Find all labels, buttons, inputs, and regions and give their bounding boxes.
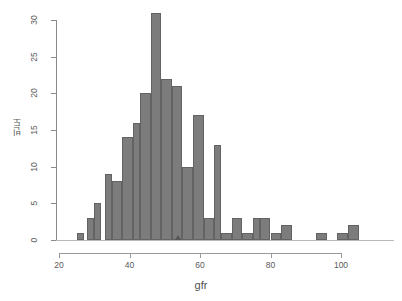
x-tick	[200, 253, 201, 258]
y-tick-label: 20	[28, 83, 40, 103]
x-tick	[271, 253, 272, 258]
y-tick-label: 5	[28, 193, 40, 213]
y-tick-label: 10	[28, 157, 40, 177]
mean-marker-triangle	[175, 235, 181, 240]
y-tick	[51, 57, 56, 58]
x-tick-label: 20	[44, 260, 74, 271]
y-tick-label: 25	[28, 47, 40, 67]
y-tick-label: 0	[28, 230, 40, 250]
histogram-bar	[232, 218, 243, 240]
histogram-bar	[94, 203, 101, 240]
histogram-bar	[172, 86, 183, 240]
histogram-bar	[348, 225, 359, 240]
histogram-bar	[133, 123, 140, 240]
histogram-bar	[204, 218, 215, 240]
x-tick-label: 60	[185, 260, 215, 271]
y-tick-label: 30	[28, 10, 40, 30]
histogram-bar	[271, 233, 282, 240]
x-tick-label: 100	[326, 260, 356, 271]
histogram-bar	[77, 233, 84, 240]
histogram-bar	[316, 233, 327, 240]
histogram-bar	[87, 218, 94, 240]
histogram-bar	[105, 174, 112, 240]
y-tick	[51, 130, 56, 131]
x-axis-title: gfr	[0, 279, 402, 291]
x-tick	[341, 253, 342, 258]
histogram-bar	[161, 79, 172, 240]
histogram-bar	[182, 167, 193, 240]
histogram-bar	[337, 233, 348, 240]
histogram-bar	[140, 93, 151, 240]
x-tick-label: 40	[115, 260, 145, 271]
x-tick	[59, 253, 60, 258]
histogram-chart: 051015202530 빈도 20406080100 gfr	[0, 0, 402, 301]
histogram-bar	[242, 233, 253, 240]
histogram-bar	[112, 181, 123, 240]
histogram-bar	[281, 225, 292, 240]
bars-baseline	[56, 240, 394, 241]
y-tick-label: 15	[28, 120, 40, 140]
y-axis-title: 빈도	[12, 107, 26, 147]
y-tick	[51, 167, 56, 168]
y-axis-line	[56, 20, 57, 241]
x-tick	[130, 253, 131, 258]
histogram-bar	[193, 115, 204, 240]
histogram-bar	[221, 233, 232, 240]
histogram-bar	[122, 137, 133, 240]
y-tick	[51, 20, 56, 21]
histogram-bar	[214, 145, 221, 240]
y-tick	[51, 203, 56, 204]
y-tick	[51, 93, 56, 94]
histogram-bar	[253, 218, 260, 240]
histogram-bar	[151, 13, 162, 240]
plot-area: 051015202530 빈도 20406080100 gfr	[0, 0, 402, 301]
x-tick-label: 80	[256, 260, 286, 271]
histogram-bar	[260, 218, 271, 240]
